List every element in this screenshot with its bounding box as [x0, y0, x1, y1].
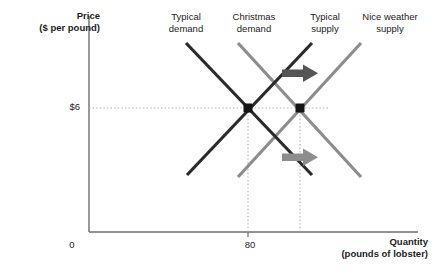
curve-label-typical-supply: Typical supply [294, 11, 356, 34]
curve-label-typical-supply-line2: supply [311, 23, 338, 34]
y-axis-tick-price: $6 [50, 101, 80, 113]
y-axis-title: Price ($ per pound) [8, 10, 100, 33]
equilibrium-point-new [296, 104, 305, 113]
x-axis-title: Quantity (pounds of lobster) [288, 236, 428, 259]
curve-label-nice-weather-supply-line1: Nice weather [362, 11, 417, 22]
curve-label-christmas-demand-line1: Christmas [233, 11, 276, 22]
curve-label-typical-supply-line1: Typical [310, 11, 340, 22]
curve-label-nice-weather-supply: Nice weather supply [350, 11, 430, 34]
curve-label-typical-demand-line1: Typical [171, 11, 201, 22]
lobster-supply-demand-figure: Price ($ per pound) Quantity (pounds of … [0, 0, 433, 274]
y-axis-title-text: Price [77, 10, 100, 21]
curve-label-nice-weather-supply-line2: supply [376, 23, 403, 34]
curve-label-typical-demand-line2: demand [169, 23, 203, 34]
curve-label-christmas-demand-line2: demand [237, 23, 271, 34]
curve-label-christmas-demand: Christmas demand [216, 11, 292, 34]
y-axis-subtitle-text: ($ per pound) [8, 22, 100, 34]
curve-label-typical-demand: Typical demand [152, 11, 220, 34]
x-axis-title-text: Quantity [389, 236, 428, 247]
x-axis-tick-80: 80 [238, 239, 262, 251]
chart-canvas [0, 0, 433, 274]
x-axis-subtitle-text: (pounds of lobster) [288, 248, 428, 260]
equilibrium-point-typical [244, 104, 253, 113]
x-axis-tick-origin: 0 [62, 239, 82, 251]
